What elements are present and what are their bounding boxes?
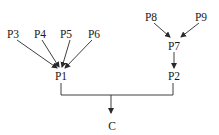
edge-p8-p7 xyxy=(154,23,170,37)
node-p7: P7 xyxy=(168,40,180,52)
diagram-canvas: P3 P4 P5 P6 P1 P8 P9 P7 P2 C xyxy=(0,0,219,135)
edge-bracket-p1-p2-c xyxy=(61,83,173,113)
node-p2: P2 xyxy=(168,70,180,82)
node-p9: P9 xyxy=(195,11,207,23)
node-p6: P6 xyxy=(88,28,100,40)
node-p4: P4 xyxy=(34,28,46,40)
node-p3: P3 xyxy=(7,28,19,40)
node-p5: P5 xyxy=(60,28,72,40)
node-c: C xyxy=(108,120,116,132)
edge-p5-p1 xyxy=(62,40,70,67)
node-p8: P8 xyxy=(145,11,157,23)
edge-p9-p7 xyxy=(181,23,199,37)
node-p1: P1 xyxy=(55,70,67,82)
